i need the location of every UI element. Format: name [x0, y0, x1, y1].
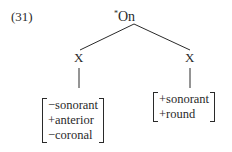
feature: +anterior — [48, 113, 98, 128]
right-bracket — [210, 92, 215, 122]
tree-branches — [0, 0, 232, 152]
feature: −coronal — [48, 128, 98, 143]
feature: +sonorant — [159, 92, 209, 107]
feature: +round — [159, 107, 209, 122]
feature-matrix-right: +sonorant +round — [159, 92, 209, 122]
left-bracket — [42, 98, 47, 143]
left-bracket — [153, 92, 158, 122]
tree-node-x-right: X — [185, 51, 194, 64]
tree-node-x-left: X — [74, 51, 83, 64]
feature: −sonorant — [48, 98, 98, 113]
feature-matrix-left: −sonorant +anterior −coronal — [48, 98, 98, 143]
right-bracket — [99, 98, 104, 143]
